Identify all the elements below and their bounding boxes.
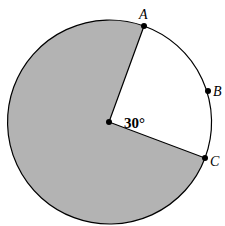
- label-a: A: [138, 7, 148, 22]
- point-a: [141, 23, 147, 29]
- label-b: B: [213, 84, 222, 99]
- unshaded-arc: [144, 26, 212, 158]
- angle-label: 30°: [124, 115, 145, 131]
- point-b: [205, 88, 211, 94]
- label-c: C: [210, 154, 220, 169]
- point-c: [202, 155, 208, 161]
- circle-diagram: A B C 30°: [0, 0, 225, 226]
- center-point: [106, 119, 112, 125]
